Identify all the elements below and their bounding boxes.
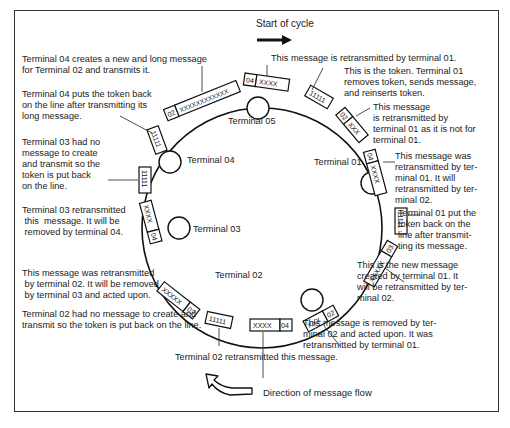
frame-04-xxxx-top: 04 XXXX: [243, 73, 289, 91]
annotation-not-for-01: This message is retransmitted by termina…: [373, 102, 476, 146]
svg-text:11111: 11111: [141, 170, 148, 187]
annotation-token-01: This is the token. Terminal 01 removes t…: [344, 66, 476, 99]
annotation-t02-retransmitted: Terminal 02 retransmitted this message.: [175, 352, 338, 363]
start-of-cycle-label: Start of cycle: [256, 18, 314, 29]
direction-of-flow-label: Direction of message flow: [263, 387, 372, 398]
token-frame-1: 11111: [305, 85, 334, 108]
token-frame-11: 11111: [139, 167, 151, 193]
annotation-t04-new-message: Terminal 04 creates a new and long messa…: [22, 54, 207, 76]
terminal-04-node: [159, 151, 181, 173]
frame-04-xxxx-bottom: XXXX 04: [250, 319, 292, 331]
svg-text:XXXX: XXXX: [253, 322, 272, 329]
annotation-removed-by-02: This message is removed by ter- minal 02…: [303, 318, 436, 351]
svg-text:04: 04: [281, 322, 289, 329]
annotation-t01-token-back: Terminal 01 put the token back on the li…: [398, 208, 476, 252]
annotation-t02-retransmitted-removed-03: This message was retransmitted by termin…: [22, 268, 159, 301]
annotation-new-from-01: This is the new message created by termi…: [357, 260, 467, 304]
flow-direction-arrow-icon: [206, 374, 252, 395]
terminal-02-label: Terminal 02: [215, 270, 263, 281]
annotation-t02-no-message: Terminal 02 had no message to create and…: [22, 309, 201, 331]
annotation-t03-retransmitted: Terminal 03 retransmitted this message. …: [22, 205, 126, 238]
annotation-retrans-by-01: This message is retransmitted by termina…: [271, 53, 456, 64]
annotation-t03-no-message: Terminal 03 had no message to create and…: [22, 137, 100, 192]
start-arrow-icon: [257, 35, 292, 45]
terminal-01-label: Terminal 01: [314, 157, 362, 168]
terminal-03-label: Terminal 03: [193, 224, 241, 235]
terminal-02-node: [301, 289, 323, 311]
annotation-t04-token-back: Terminal 04 puts the token back on the l…: [22, 89, 152, 122]
terminal-05-label: Terminal 05: [228, 116, 276, 127]
svg-text:04: 04: [246, 76, 255, 84]
token-frame-12: 11111: [147, 126, 167, 155]
terminal-04-label: Terminal 04: [187, 155, 235, 166]
terminal-03-node: [168, 217, 190, 239]
annotation-retrans-01-then-02: This message was retransmitted by ter- m…: [395, 151, 477, 206]
token-frame-8: 11111: [205, 311, 233, 328]
